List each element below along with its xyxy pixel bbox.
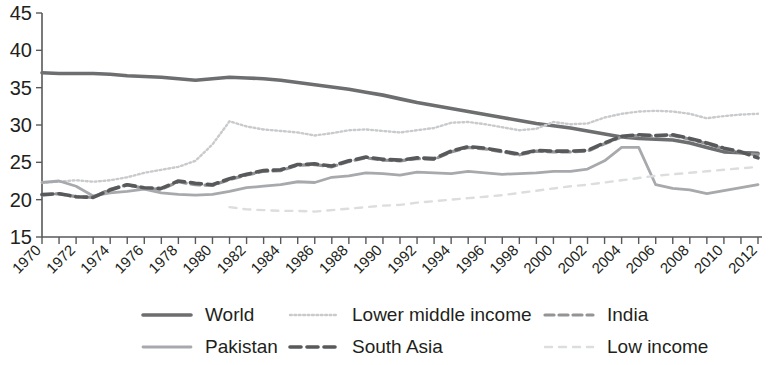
legend-label-lower-middle-income: Lower middle income	[352, 304, 532, 325]
chart-legend: WorldLower middle incomeIndiaPakistanSou…	[143, 304, 708, 357]
y-axis-tick-label: 45	[10, 2, 32, 24]
y-axis-tick-label: 30	[10, 114, 32, 136]
series-line-south-asia	[42, 135, 758, 198]
x-axis-tick-label: 2004	[588, 241, 624, 277]
chart-canvas: 15202530354045 1970197219741976197819801…	[0, 0, 773, 365]
x-axis-tick-label: 1982	[213, 241, 249, 277]
x-axis-tick-label: 2008	[656, 241, 692, 277]
y-axis-tick-label: 25	[10, 151, 32, 173]
x-axis-tick-label: 1990	[349, 241, 385, 277]
legend-label-pakistan: Pakistan	[205, 336, 278, 357]
y-axis-tick-label: 20	[10, 189, 32, 211]
x-axis-tick-label: 1974	[77, 241, 113, 277]
x-axis-tick-label: 2010	[690, 241, 726, 277]
data-series-group	[42, 73, 758, 212]
x-axis-tick-label: 2012	[725, 241, 761, 277]
x-axis-tick-label: 1978	[145, 241, 181, 277]
legend-label-low-income: Low income	[607, 336, 708, 357]
x-axis-tick-label: 1992	[384, 241, 420, 277]
x-axis: 1970197219741976197819801982198419861988…	[9, 237, 762, 277]
x-axis-tick-label: 2006	[622, 241, 658, 277]
x-axis-tick-label: 2002	[554, 241, 590, 277]
x-axis-tick-label: 1972	[43, 241, 79, 277]
x-axis-tick-label: 2000	[520, 241, 556, 277]
y-axis-tick-label: 35	[10, 77, 32, 99]
legend-label-india: India	[607, 304, 649, 325]
line-chart: 15202530354045 1970197219741976197819801…	[0, 0, 773, 365]
x-axis-tick-label: 1976	[111, 241, 147, 277]
y-axis: 15202530354045	[10, 2, 42, 248]
x-axis-tick-label: 1996	[452, 241, 488, 277]
x-axis-tick-label: 1984	[247, 241, 283, 277]
legend-label-south-asia: South Asia	[352, 336, 443, 357]
x-axis-tick-label: 1988	[315, 241, 351, 277]
y-axis-tick-label: 40	[10, 39, 32, 61]
x-axis-tick-label: 1994	[418, 241, 454, 277]
x-axis-tick-label: 1998	[486, 241, 522, 277]
x-axis-tick-label: 1980	[179, 241, 215, 277]
x-axis-tick-label: 1986	[281, 241, 317, 277]
legend-label-world: World	[205, 304, 254, 325]
series-line-world	[42, 73, 758, 154]
